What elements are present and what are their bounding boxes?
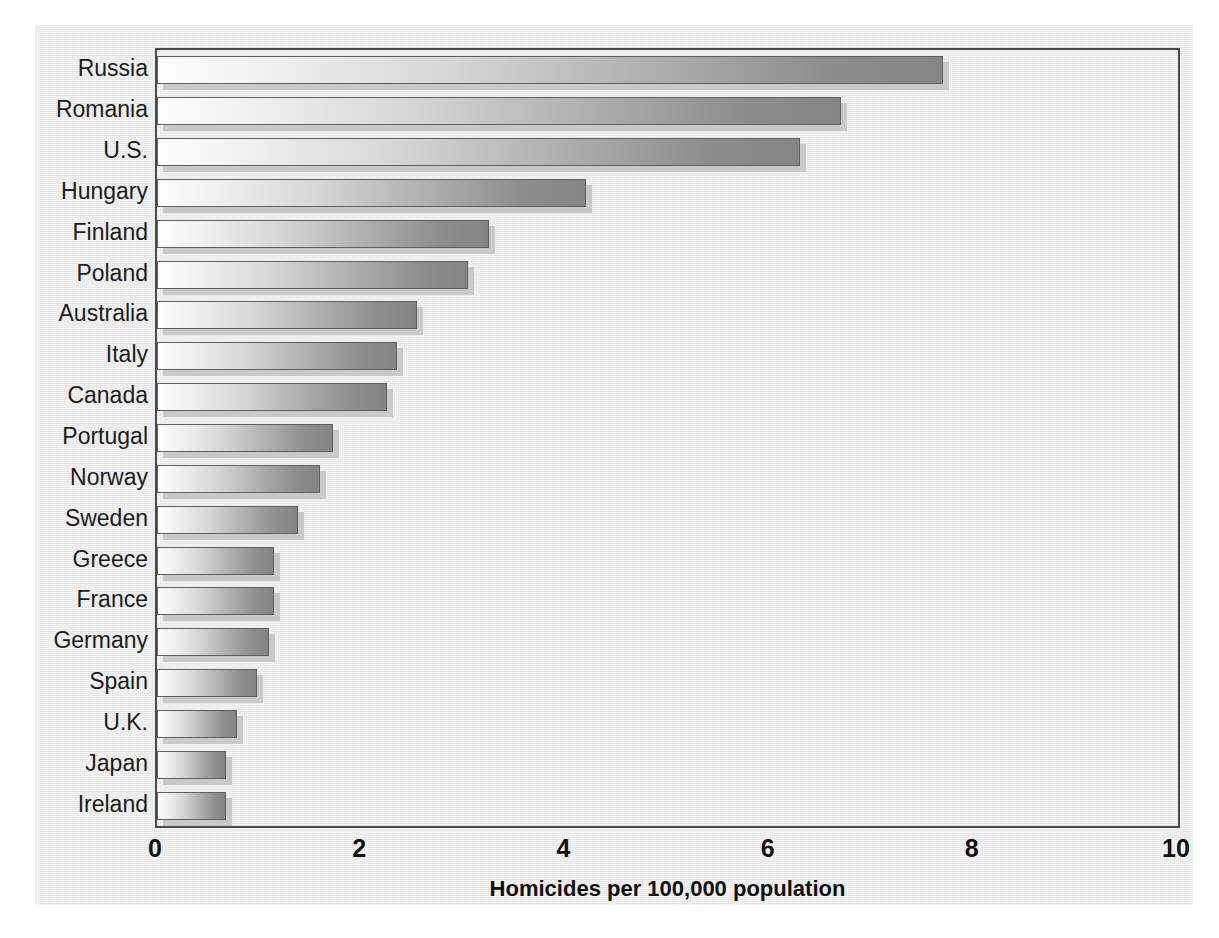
- y-axis-label: Italy: [20, 343, 148, 366]
- bar-body: [157, 669, 257, 697]
- y-axis-category-labels: RussiaRomaniaU.S.HungaryFinlandPolandAus…: [20, 48, 148, 828]
- bar: [157, 220, 489, 248]
- y-axis-label: Russia: [20, 57, 148, 80]
- y-axis-label: Spain: [20, 670, 148, 693]
- bar-body: [157, 547, 274, 575]
- bar-body: [157, 261, 468, 289]
- bar: [157, 465, 320, 493]
- bottom-caption: [38, 922, 1138, 938]
- bar-body: [157, 383, 387, 411]
- bar: [157, 669, 257, 697]
- y-axis-label: Poland: [20, 262, 148, 285]
- y-axis-label: Australia: [20, 302, 148, 325]
- y-axis-label: Sweden: [20, 507, 148, 530]
- bar-body: [157, 220, 489, 248]
- x-axis-tick: 10: [1162, 834, 1190, 863]
- y-axis-label: France: [20, 588, 148, 611]
- bar-body: [157, 506, 298, 534]
- bar: [157, 179, 586, 207]
- bar-body: [157, 751, 226, 779]
- bar: [157, 506, 298, 534]
- bar: [157, 342, 397, 370]
- y-axis-label: Norway: [20, 466, 148, 489]
- bar: [157, 710, 237, 738]
- y-axis-label: Greece: [20, 548, 148, 571]
- y-axis-label: Canada: [20, 384, 148, 407]
- bar: [157, 547, 274, 575]
- x-axis-tick: 2: [352, 834, 366, 863]
- y-axis-label: Japan: [20, 752, 148, 775]
- bar-body: [157, 587, 274, 615]
- x-axis-tick-labels: 0246810: [0, 834, 1219, 874]
- bar-body: [157, 56, 943, 84]
- x-axis-tick: 8: [965, 834, 979, 863]
- bar-body: [157, 710, 237, 738]
- bars-layer: [157, 50, 1178, 826]
- bar-body: [157, 792, 226, 820]
- bar: [157, 792, 226, 820]
- x-axis-tick: 4: [556, 834, 570, 863]
- bar: [157, 97, 841, 125]
- x-axis-title: Homicides per 100,000 population: [155, 876, 1180, 902]
- bar-body: [157, 628, 269, 656]
- y-axis-label: U.S.: [20, 139, 148, 162]
- y-axis-label: Hungary: [20, 180, 148, 203]
- y-axis-label: Portugal: [20, 425, 148, 448]
- bar: [157, 261, 468, 289]
- y-axis-label: Finland: [20, 221, 148, 244]
- bar: [157, 628, 269, 656]
- bar: [157, 751, 226, 779]
- y-axis-label: U.K.: [20, 711, 148, 734]
- bar: [157, 138, 800, 166]
- x-axis-tick: 6: [761, 834, 775, 863]
- y-axis-label: Germany: [20, 629, 148, 652]
- bar: [157, 301, 417, 329]
- bar-chart: RussiaRomaniaU.S.HungaryFinlandPolandAus…: [0, 0, 1219, 938]
- bar: [157, 383, 387, 411]
- bar-body: [157, 97, 841, 125]
- bar: [157, 56, 943, 84]
- bar-body: [157, 301, 417, 329]
- bar-body: [157, 342, 397, 370]
- bar: [157, 587, 274, 615]
- bar-body: [157, 424, 333, 452]
- x-axis-tick: 0: [148, 834, 162, 863]
- bar-body: [157, 138, 800, 166]
- bar-body: [157, 179, 586, 207]
- y-axis-label: Ireland: [20, 793, 148, 816]
- bar: [157, 424, 333, 452]
- y-axis-label: Romania: [20, 98, 148, 121]
- bar-body: [157, 465, 320, 493]
